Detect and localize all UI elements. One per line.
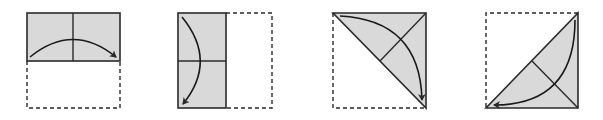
step-3-diagram [333, 13, 426, 108]
dashed-outline [226, 13, 272, 108]
step-2-diagram [178, 13, 272, 108]
folding-diagram [0, 0, 603, 120]
dashed-outline [27, 61, 120, 108]
step-4-diagram [486, 13, 578, 108]
step-1-diagram [27, 13, 120, 108]
